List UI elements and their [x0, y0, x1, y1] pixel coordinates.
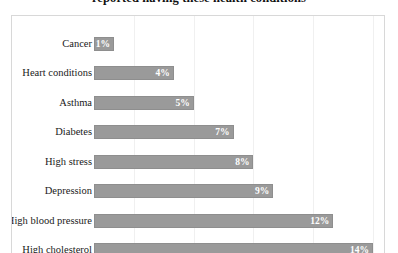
bar-row: Diabetes7%	[12, 118, 384, 148]
bar-row: High stress8%	[12, 147, 384, 177]
category-label: High blood pressure	[11, 215, 92, 227]
bar-value-label: 12%	[310, 216, 329, 226]
bar-value-label: 9%	[255, 186, 269, 196]
category-label: Heart conditions	[22, 67, 92, 79]
bar: 14%	[94, 243, 373, 253]
bar: 5%	[94, 96, 194, 110]
bar-row: Depression9%	[12, 177, 384, 207]
bar: 9%	[94, 184, 273, 198]
bar: 4%	[94, 66, 174, 80]
bar-row: Cancer1%	[12, 29, 384, 59]
category-label: High stress	[45, 156, 92, 168]
category-label: High cholesterol	[22, 244, 92, 253]
bar: 8%	[94, 155, 253, 169]
bar: 1%	[94, 37, 114, 51]
category-label: Depression	[45, 185, 92, 197]
bar-value-label: 4%	[155, 68, 169, 78]
bar-value-label: 7%	[215, 127, 229, 137]
bar-row: Asthma5%	[12, 88, 384, 118]
category-label: Diabetes	[55, 126, 92, 138]
bar-value-label: 14%	[350, 245, 369, 253]
bar-value-label: 5%	[175, 98, 189, 108]
plot-area: Cancer1%Heart conditions4%Asthma5%Diabet…	[11, 15, 385, 253]
chart-title: reported having these health conditions	[0, 0, 398, 5]
category-label: Asthma	[59, 97, 92, 109]
bar: 12%	[94, 214, 333, 228]
bar-row: Heart conditions4%	[12, 59, 384, 89]
bar-chart-figure: reported having these health conditions …	[0, 0, 398, 253]
bar-value-label: 8%	[235, 157, 249, 167]
bar-value-label: 1%	[96, 39, 110, 49]
bar-row: High blood pressure12%	[12, 206, 384, 236]
category-label: Cancer	[62, 38, 92, 50]
bar-row: High cholesterol14%	[12, 236, 384, 253]
bar: 7%	[94, 125, 234, 139]
